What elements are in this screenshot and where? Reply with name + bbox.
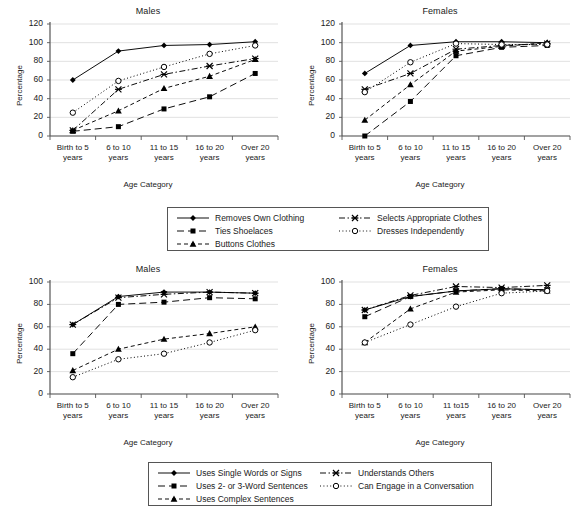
series-marker (70, 110, 75, 115)
series-marker (116, 78, 121, 83)
series-marker (206, 63, 213, 69)
y-tick-label: 100 (296, 276, 335, 286)
series-marker (408, 322, 413, 327)
plot-area (296, 4, 584, 194)
legend-entry: Uses Complex Sentences (157, 493, 294, 505)
y-tick-label: 20 (4, 111, 43, 121)
x-tick-label: Over 20years (232, 401, 278, 421)
series-line (73, 292, 255, 324)
series-marker (362, 340, 367, 345)
plot-area (4, 262, 292, 452)
x-tick-label: 11 to15years (433, 401, 479, 421)
y-tick-label: 20 (296, 366, 335, 376)
legend-marker-icon (176, 238, 210, 250)
series-marker (70, 375, 75, 380)
series-line (73, 298, 255, 354)
legend-label: Uses Complex Sentences (196, 493, 294, 505)
series-marker (253, 327, 258, 332)
y-tick-label: 40 (296, 343, 335, 353)
x-tick-label: Over 20years (524, 143, 570, 163)
legend-marker-icon (157, 480, 191, 492)
series-marker (453, 304, 458, 309)
series-line (73, 45, 255, 112)
y-tick-label: 40 (4, 93, 43, 103)
series-line (365, 45, 547, 136)
series-marker (207, 295, 212, 300)
legend-entry: Buttons Clothes (176, 238, 275, 250)
series-marker (70, 351, 75, 356)
legend-marker-icon (176, 225, 210, 237)
series-marker (545, 42, 550, 47)
y-tick-label: 80 (4, 55, 43, 65)
series-marker (161, 64, 166, 69)
series-marker (408, 99, 413, 104)
series-marker (115, 107, 122, 113)
y-tick-label: 0 (4, 388, 43, 398)
series-marker (115, 86, 122, 92)
series-marker (253, 296, 258, 301)
series-marker (161, 71, 168, 77)
x-tick-label: 6 to 10years (388, 143, 434, 163)
series-marker (162, 106, 167, 111)
legend-marker-icon (338, 225, 372, 237)
series-line (365, 290, 547, 343)
series-marker (207, 340, 212, 345)
y-tick-label: 60 (296, 74, 335, 84)
series-marker (207, 51, 212, 56)
series-marker (408, 43, 414, 49)
series-marker (206, 330, 213, 336)
x-tick-label: 11 to 15years (141, 143, 187, 163)
series-marker (408, 60, 413, 65)
legend-entry: Dresses Independently (338, 225, 464, 237)
legend-marker-icon (176, 212, 210, 224)
legend-dressing-grid: Removes Own ClothingTies ShoelacesButton… (168, 208, 488, 250)
x-tick-label: 16 to 20years (479, 143, 525, 163)
legend-label: Understands Others (358, 467, 434, 479)
y-tick-label: 100 (4, 276, 43, 286)
legend-marker-icon (319, 467, 353, 479)
legend-entry: Uses 2- or 3-Word Sentences (157, 480, 308, 492)
legend-label: Dresses Independently (377, 225, 464, 237)
legend-marker-icon (338, 212, 372, 224)
series-marker (116, 357, 121, 362)
x-tick-label: 11 to 15years (433, 143, 479, 163)
y-tick-label: 120 (4, 18, 43, 28)
series-marker (545, 288, 550, 293)
series-marker (161, 43, 167, 49)
series-marker (116, 48, 122, 54)
y-tick-label: 40 (296, 93, 335, 103)
legend-label: Removes Own Clothing (215, 212, 304, 224)
series-line (365, 291, 547, 343)
legend-dressing: Removes Own ClothingTies ShoelacesButton… (167, 207, 489, 251)
series-marker (407, 81, 414, 87)
y-tick-label: 20 (4, 366, 43, 376)
series-marker (253, 71, 258, 76)
series-line (73, 292, 255, 324)
chart-panel-dressing-males: MalesPercentageAge Category0204060801001… (4, 4, 292, 194)
x-tick-label: 6 to 10years (96, 401, 142, 421)
y-tick-label: 80 (296, 298, 335, 308)
legend-label: Uses Single Words or Signs (196, 467, 302, 479)
series-marker (362, 89, 367, 94)
x-tick-label: Over 20years (524, 401, 570, 421)
y-tick-label: 0 (4, 130, 43, 140)
series-marker (362, 71, 368, 77)
legend-entry: Ties Shoelaces (176, 225, 273, 237)
series-marker (499, 291, 504, 296)
legend-marker-icon (319, 480, 353, 492)
series-marker (116, 124, 121, 129)
series-marker (69, 367, 76, 373)
y-tick-label: 80 (296, 55, 335, 65)
x-tick-label: Birth to 5years (342, 401, 388, 421)
x-tick-label: 6 to 10years (388, 401, 434, 421)
series-marker (161, 85, 168, 91)
legend-entry: Selects Appropriate Clothes (338, 212, 482, 224)
x-tick-label: Birth to 5years (342, 143, 388, 163)
legend-entry: Can Engage in a Conversation (319, 480, 474, 492)
legend-entry: Removes Own Clothing (176, 212, 304, 224)
series-marker (454, 53, 459, 58)
y-tick-label: 60 (4, 74, 43, 84)
series-marker (207, 94, 212, 99)
legend-label: Can Engage in a Conversation (358, 480, 474, 492)
legend-label: Ties Shoelaces (215, 225, 273, 237)
